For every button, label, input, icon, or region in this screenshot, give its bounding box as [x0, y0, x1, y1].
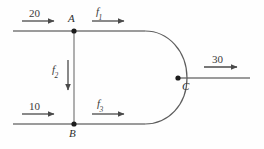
node-b-label: B	[69, 128, 76, 139]
edge-f1-subscript: 1	[99, 13, 103, 22]
edge-f2-label: f2	[52, 64, 59, 78]
edge-f2-subscript: 2	[55, 71, 59, 80]
node-a-label: A	[68, 13, 75, 24]
inflow-bottom-value: 10	[29, 101, 40, 112]
edge-f3-subscript: 3	[100, 105, 104, 114]
inflow-top-value: 20	[29, 8, 40, 19]
node-c-dot	[175, 75, 180, 80]
diagram-canvas	[0, 0, 264, 149]
edge-f3-label: f3	[97, 98, 104, 112]
flow-network-figure: A B C 20 10 30 f1 f2 f3	[0, 0, 264, 149]
outflow-value: 30	[212, 54, 223, 65]
node-a-dot	[71, 28, 76, 33]
node-c-label: C	[182, 81, 189, 92]
node-b-dot	[71, 121, 76, 126]
edge-f1-label: f1	[96, 6, 103, 20]
